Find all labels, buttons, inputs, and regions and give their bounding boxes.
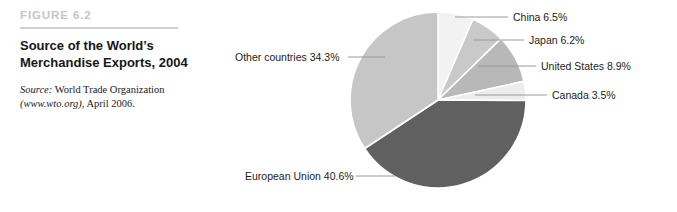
pie-label-japan: Japan 6.2% [529, 34, 584, 46]
source-organization: World Trade Organization [52, 84, 164, 95]
source-url: (www.wto.org) [20, 98, 82, 109]
pie-label-china: China 6.5% [513, 11, 567, 23]
figure-rule-divider [20, 27, 178, 29]
pie-label-united-states: United States 8.9% [541, 60, 631, 72]
pie-slice-group [350, 12, 526, 188]
pie-label-european-union: European Union 40.6% [245, 170, 354, 182]
figure-source-note: Source: World Trade Organization (www.wt… [20, 83, 215, 110]
figure-number: FIGURE 6.2 [20, 8, 220, 22]
figure-container: FIGURE 6.2 Source of the World’s Merchan… [0, 0, 677, 212]
pie-chart: China 6.5%Japan 6.2%United States 8.9%Ca… [225, 0, 677, 212]
figure-title: Source of the World’s Merchandise Export… [20, 38, 210, 71]
source-date: , April 2006. [82, 98, 135, 109]
pie-label-other-countries: Other countries 34.3% [235, 51, 339, 63]
pie-label-canada: Canada 3.5% [552, 89, 616, 101]
source-label: Source: [20, 84, 52, 95]
figure-caption-block: FIGURE 6.2 Source of the World’s Merchan… [20, 8, 220, 110]
